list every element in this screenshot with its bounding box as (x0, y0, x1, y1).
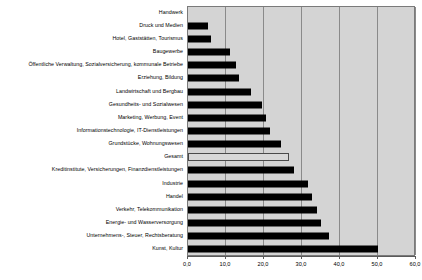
bar (188, 62, 236, 69)
x-axis-tick (187, 256, 188, 259)
bar (188, 127, 270, 134)
bar (188, 141, 281, 148)
x-axis-tick (377, 256, 378, 259)
bar (188, 75, 239, 82)
x-axis-tick (301, 256, 302, 259)
bar (188, 167, 294, 174)
chart-row: Industrie (0, 177, 422, 190)
chart-row: Energie- und Wasserversorgung (0, 217, 422, 230)
chart-row: Kreditinstitute, Versicherungen, Finanzd… (0, 164, 422, 177)
category-label: Kreditinstitute, Versicherungen, Finanzd… (52, 168, 183, 174)
chart-row: Verkehr, Telekommunikation (0, 203, 422, 216)
chart-row: Grundstücke, Wohnungswesen (0, 138, 422, 151)
category-label: Baugewerbe (153, 49, 183, 55)
bar (188, 35, 211, 42)
category-label: Grundstücke, Wohnungswesen (108, 141, 183, 147)
chart-row: Unternehmens-, Steuer, Rechtsberatung (0, 230, 422, 243)
bar (188, 220, 321, 227)
bar (188, 193, 312, 200)
chart-row: Druck und Medien (0, 19, 422, 32)
chart-row: Öffentliche Verwaltung, Sozialversicheru… (0, 59, 422, 72)
chart-row: Gesamt (0, 151, 422, 164)
bar (188, 49, 230, 56)
category-label: Marketing, Werbung, Event (118, 115, 183, 121)
chart-row: Marketing, Werbung, Event (0, 111, 422, 124)
chart-row: Handel (0, 190, 422, 203)
x-axis-tick-label: 30,0 (296, 261, 307, 267)
bar (188, 88, 251, 95)
bar-total (188, 153, 289, 161)
chart-row: Landwirtschaft und Bergbau (0, 85, 422, 98)
category-label: Handwerk (159, 10, 183, 16)
bar (188, 101, 262, 108)
bar-chart: HandwerkDruck und MedienHotel, Gaststätt… (0, 0, 422, 280)
bar (188, 246, 378, 253)
bar (188, 114, 266, 121)
x-axis-tick (263, 256, 264, 259)
bar (188, 22, 208, 29)
x-axis-tick (225, 256, 226, 259)
chart-row: Erziehung, Bildung (0, 72, 422, 85)
chart-row: Gesundheits- und Sozialwesen (0, 98, 422, 111)
x-axis-tick (415, 256, 416, 259)
category-label: Erziehung, Bildung (138, 75, 183, 81)
category-label: Öffentliche Verwaltung, Sozialversicheru… (28, 62, 183, 68)
category-label: Gesundheits- und Sozialwesen (109, 102, 183, 108)
x-axis-tick-label: 50,0 (372, 261, 383, 267)
bar (188, 206, 317, 213)
category-label: Energie- und Wasserversorgung (106, 220, 183, 226)
x-axis-tick-label: 20,0 (258, 261, 269, 267)
x-axis-tick-label: 40,0 (334, 261, 345, 267)
x-axis-tick-label: 60,0 (410, 261, 421, 267)
category-label: Informationstechnologie, IT-Dienstleistu… (77, 128, 183, 134)
category-label: Verkehr, Telekommunikation (116, 207, 183, 213)
category-label: Druck und Medien (139, 23, 183, 29)
category-label: Handel (166, 194, 183, 200)
x-axis-tick-label: 10,0 (220, 261, 231, 267)
category-label: Gesamt (164, 154, 183, 160)
chart-row: Hotel, Gaststätten, Tourismus (0, 32, 422, 45)
category-label: Kunst, Kultur (152, 247, 183, 253)
category-label: Unternehmens-, Steuer, Rechtsberatung (86, 233, 183, 239)
bar-rows-container: HandwerkDruck und MedienHotel, Gaststätt… (0, 6, 422, 256)
chart-row: Handwerk (0, 6, 422, 19)
chart-row: Informationstechnologie, IT-Dienstleistu… (0, 124, 422, 137)
category-label: Industrie (162, 181, 183, 187)
bar (188, 180, 308, 187)
chart-row: Baugewerbe (0, 45, 422, 58)
chart-row: Kunst, Kultur (0, 243, 422, 256)
x-axis-tick-label: 0,0 (183, 261, 191, 267)
category-label: Hotel, Gaststätten, Tourismus (112, 36, 183, 42)
category-label: Landwirtschaft und Bergbau (116, 89, 183, 95)
bar (188, 233, 329, 240)
x-axis-tick (339, 256, 340, 259)
